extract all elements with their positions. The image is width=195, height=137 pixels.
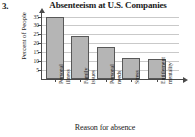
x-axis-label: Reason for absence xyxy=(20,123,190,133)
problem-number: 3. xyxy=(2,1,8,11)
x-axis-arrow-icon xyxy=(183,77,188,83)
x-tick-mark xyxy=(106,79,107,82)
x-tick-mark xyxy=(131,79,132,82)
x-tick-label: Entitlementmentality xyxy=(160,57,173,84)
x-tick-label: Familyissues xyxy=(83,68,96,84)
plot-area: 5101520253035 PersonalillnessFamilyissue… xyxy=(41,13,189,79)
y-tick-label: 25 xyxy=(34,31,40,37)
x-tick-label: Personalneeds xyxy=(109,64,122,84)
y-tick-label: 35 xyxy=(34,14,40,20)
y-tick-label: 20 xyxy=(34,40,40,46)
x-tick-mark xyxy=(80,79,81,82)
chart-title: Absenteeism at U.S. Companies xyxy=(24,0,192,11)
absenteeism-bar-chart-figure: 3. Absenteeism at U.S. Companies Percent… xyxy=(0,0,195,137)
x-tick-label: Stress xyxy=(134,70,141,84)
y-axis-label: Percent of People xyxy=(20,0,28,73)
y-axis-arrow-icon xyxy=(39,8,45,13)
x-tick-mark xyxy=(55,79,56,82)
y-axis-line xyxy=(41,13,42,79)
y-tick-label: 30 xyxy=(34,22,40,28)
y-tick-label: 10 xyxy=(34,58,40,64)
x-tick-label: Personalillness xyxy=(58,64,71,84)
y-tick-label: 5 xyxy=(36,67,39,73)
x-tick-mark xyxy=(157,79,158,82)
y-tick-label: 15 xyxy=(34,49,40,55)
